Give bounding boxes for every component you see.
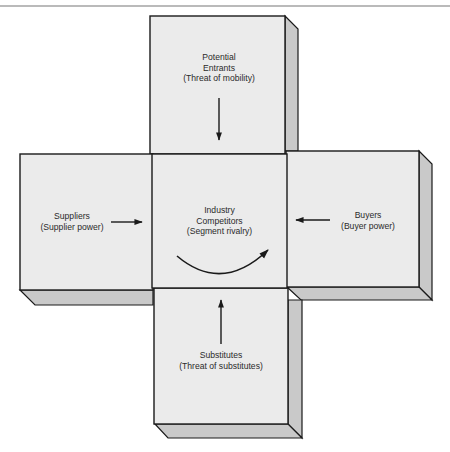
right-box-bottom-face: [287, 287, 432, 300]
bottom-box-bottom-face: [155, 424, 302, 438]
label-line: (Threat of substitutes): [154, 361, 288, 372]
label-line: (Supplier power): [28, 222, 116, 233]
label-line: Substitutes: [154, 350, 288, 361]
left-box-bottom-face: [20, 290, 153, 305]
bottom-box-side-face: [288, 300, 302, 438]
top-box-face: [150, 16, 285, 154]
label-line: (Segment rivalry): [152, 226, 287, 237]
label-line: (Threat of mobility): [150, 73, 288, 84]
label-line: Entrants: [150, 63, 288, 74]
bottom-box-label: Substitutes (Threat of substitutes): [154, 350, 288, 371]
label-line: Competitors: [152, 216, 287, 227]
label-line: (Buyer power): [330, 221, 406, 232]
label-line: Suppliers: [28, 211, 116, 222]
label-line: Potential: [150, 52, 288, 63]
label-line: Industry: [152, 205, 287, 216]
right-box-side-face: [419, 151, 432, 300]
left-box-label: Suppliers (Supplier power): [28, 211, 116, 232]
right-box-label: Buyers (Buyer power): [330, 210, 406, 231]
center-box-label: Industry Competitors (Segment rivalry): [152, 205, 287, 237]
top-box-label: Potential Entrants (Threat of mobility): [150, 52, 288, 84]
label-line: Buyers: [330, 210, 406, 221]
top-box-side-face: [285, 16, 298, 151]
